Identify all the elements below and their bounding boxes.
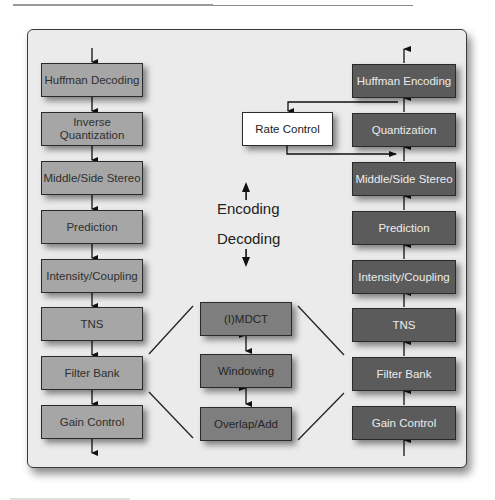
decoder-filter-bank: Filter Bank xyxy=(41,356,143,390)
direction-arrows xyxy=(242,182,250,267)
detail-imdct: (I)MDCT xyxy=(200,302,292,336)
encoder-filter-bank: Filter Bank xyxy=(352,357,456,391)
rate-control-box: Rate Control xyxy=(242,112,333,146)
box-label: TNS xyxy=(81,318,104,331)
encoding-label: Encoding xyxy=(217,200,280,217)
box-label: Quantization xyxy=(372,124,437,137)
encoder-huffman-encoding: Huffman Encoding xyxy=(352,64,456,98)
encoder-prediction: Prediction xyxy=(352,211,456,245)
box-label: Overlap/Add xyxy=(214,418,278,431)
box-label: Inverse Quantization xyxy=(60,116,125,142)
decoder-prediction: Prediction xyxy=(41,210,143,244)
decoder-huffman-decoding: Huffman Decoding xyxy=(41,63,143,97)
box-label: Prediction xyxy=(66,221,117,234)
detail-windowing: Windowing xyxy=(200,354,292,388)
decoder-gain-control: Gain Control xyxy=(41,405,143,439)
box-label: Filter Bank xyxy=(377,368,432,381)
decoder-inverse-quantization: Inverse Quantization xyxy=(41,112,143,146)
box-label: Intensity/Coupling xyxy=(358,271,449,284)
decoder-intensity-coupling: Intensity/Coupling xyxy=(41,259,143,293)
box-label: TNS xyxy=(393,319,416,332)
box-label: Prediction xyxy=(378,222,429,235)
decoder-tns: TNS xyxy=(41,307,143,341)
box-label: Gain Control xyxy=(60,416,125,429)
encoder-gain-control: Gain Control xyxy=(352,406,456,440)
box-label: Intensity/Coupling xyxy=(46,270,137,283)
box-label: Middle/Side Stereo xyxy=(355,173,452,186)
box-label: (I)MDCT xyxy=(224,313,268,326)
encoder-intensity-coupling: Intensity/Coupling xyxy=(352,260,456,294)
box-label: Gain Control xyxy=(372,417,437,430)
box-label: Rate Control xyxy=(255,123,320,136)
box-label: Windowing xyxy=(218,365,274,378)
box-label: Huffman Encoding xyxy=(357,75,451,88)
decoder-middle-side-stereo: Middle/Side Stereo xyxy=(41,161,143,195)
decoding-label: Decoding xyxy=(217,230,280,247)
box-label: Middle/Side Stereo xyxy=(43,172,140,185)
encoder-middle-side-stereo: Middle/Side Stereo xyxy=(352,162,456,196)
detail-overlap-add: Overlap/Add xyxy=(200,407,292,441)
encoder-quantization: Quantization xyxy=(352,113,456,147)
box-label: Filter Bank xyxy=(65,367,120,380)
box-label: Huffman Decoding xyxy=(44,74,139,87)
encoder-tns: TNS xyxy=(352,308,456,342)
